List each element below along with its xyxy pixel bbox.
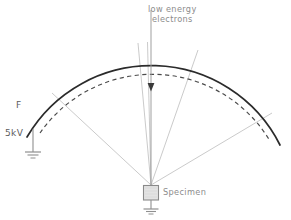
- specimen-rect: [144, 186, 159, 201]
- ground-symbol-left: [25, 129, 41, 158]
- ray-far-left: [52, 93, 151, 185]
- label-grid-f: F: [16, 100, 22, 110]
- dashed-arc-inner-grid: [40, 74, 270, 141]
- label-low-energy-electrons: low energy electrons: [148, 4, 197, 24]
- diagram-canvas: low energy electrons F 5kV Specimen: [0, 0, 291, 220]
- schematic-svg: [0, 0, 291, 220]
- ground-symbol-specimen: [144, 200, 159, 214]
- label-voltage-5kv: 5kV: [5, 128, 23, 138]
- beam-label-line-2: electrons: [148, 14, 197, 24]
- specimen-box: [144, 186, 159, 201]
- emission-rays: [52, 42, 272, 185]
- beam-label-line-1: low energy: [148, 4, 197, 14]
- ray-far-right: [151, 113, 272, 185]
- label-specimen: Specimen: [163, 187, 206, 197]
